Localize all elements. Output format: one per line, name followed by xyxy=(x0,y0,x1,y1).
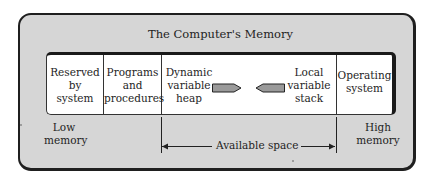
segment-operating-system: Operating system xyxy=(337,55,392,114)
diagram-title: The Computer's Memory xyxy=(0,27,441,41)
stack-label: Local variable stack xyxy=(286,66,332,105)
stack-label-line: variable xyxy=(286,79,332,92)
stack-growth-arrow-icon xyxy=(255,83,285,93)
segment-label-line: procedures xyxy=(104,92,161,105)
low-memory-line: memory xyxy=(44,134,84,147)
segment-reserved-by-system: Reserved by system xyxy=(47,55,104,114)
heap-label: Dynamic variable heap xyxy=(165,66,213,105)
low-memory-line: Low xyxy=(44,121,84,134)
low-memory-label: Low memory xyxy=(44,121,84,147)
segment-label-line: Operating xyxy=(337,69,392,82)
high-memory-line: memory xyxy=(356,134,400,147)
high-memory-line: High xyxy=(356,121,400,134)
high-memory-label: High memory xyxy=(356,121,400,147)
memory-bar: Reserved by system Programs and procedur… xyxy=(46,52,396,115)
available-space-left-line xyxy=(162,146,212,147)
arrowhead-left-icon xyxy=(162,143,168,150)
heap-label-line: heap xyxy=(165,92,213,105)
scan-speck xyxy=(20,124,22,126)
stack-label-line: Local xyxy=(286,66,332,79)
available-space-label: Available space xyxy=(213,139,301,151)
heap-label-line: variable xyxy=(165,79,213,92)
heap-growth-arrow-icon xyxy=(212,83,242,93)
segment-label-line: Reserved xyxy=(47,66,103,79)
segment-heap-and-stack: Dynamic variable heap Local variable sta… xyxy=(162,55,337,114)
segment-label-line: by xyxy=(47,79,103,92)
heap-label-line: Dynamic xyxy=(165,66,213,79)
segment-programs-and-procedures: Programs and procedures xyxy=(104,55,162,114)
arrowhead-right-icon xyxy=(329,143,335,150)
segment-label-line: Programs xyxy=(104,66,161,79)
segment-label-line: system xyxy=(47,92,103,105)
available-space-right-bound xyxy=(336,117,337,153)
scan-speck xyxy=(292,160,294,162)
segment-label-line: system xyxy=(337,82,392,95)
stack-label-line: stack xyxy=(286,92,332,105)
segment-label-line: and xyxy=(104,79,161,92)
